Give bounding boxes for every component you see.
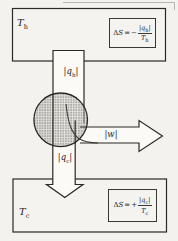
- fraction-qh-over-th: |qh| Th: [138, 25, 152, 42]
- entropy-equation-cold: ΔS = + |qc| Tc: [108, 189, 157, 222]
- cold-temperature-label: Tc: [19, 205, 41, 218]
- heat-engine-diagram: Th |qh| |w| |qc| Tc ΔS = − |qh| Th ΔS = …: [0, 0, 178, 241]
- hot-temp-symbol: T: [17, 17, 24, 28]
- fraction-qc-over-tc: |qc| Tc: [138, 197, 151, 214]
- hot-temperature-label: Th: [17, 16, 39, 29]
- cold-temp-symbol: T: [19, 206, 26, 217]
- heat-in-label: |qh|: [58, 65, 84, 78]
- heat-out-label: |qc|: [52, 151, 78, 164]
- entropy-equation-hot: ΔS = − |qh| Th: [109, 18, 156, 48]
- work-label: |w|: [98, 128, 124, 141]
